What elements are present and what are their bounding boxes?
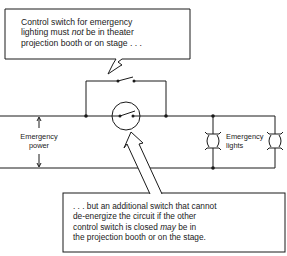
text: lighting must: [21, 27, 72, 37]
emergency-power-label: Emergency power: [18, 133, 60, 150]
top-callout-line: projection booth or on stage . . .: [21, 38, 142, 48]
emergency-light-icon-1: [205, 132, 221, 150]
bottom-callout-line: de-energize the circuit if the other: [73, 211, 216, 221]
emergency-light-icon-2: [267, 132, 283, 150]
callout-arrow: [124, 132, 162, 194]
text: be in theater: [84, 27, 134, 37]
top-callout-line: lighting must not be in theater: [21, 27, 142, 37]
bottom-callout-text: . . . but an additional switch that cann…: [73, 201, 216, 242]
text: be in: [176, 222, 196, 232]
bottom-callout-line: control switch is closed may be in: [73, 222, 216, 232]
text: control switch is closed: [73, 222, 160, 232]
control-switch-blade: [118, 77, 133, 81]
bottom-callout-line: the projection booth or on the stage.: [73, 232, 216, 242]
emphasis: may: [160, 222, 176, 232]
emphasis: not: [72, 27, 84, 37]
bottom-callout-line: . . . but an additional switch that cann…: [73, 201, 216, 211]
label-line: lights: [226, 142, 266, 151]
top-callout-text: Control switch for emergency lighting mu…: [21, 17, 142, 48]
label-line: power: [18, 142, 60, 151]
emergency-lights-label: Emergency lights: [226, 133, 266, 150]
top-callout-line: Control switch for emergency: [21, 17, 142, 27]
